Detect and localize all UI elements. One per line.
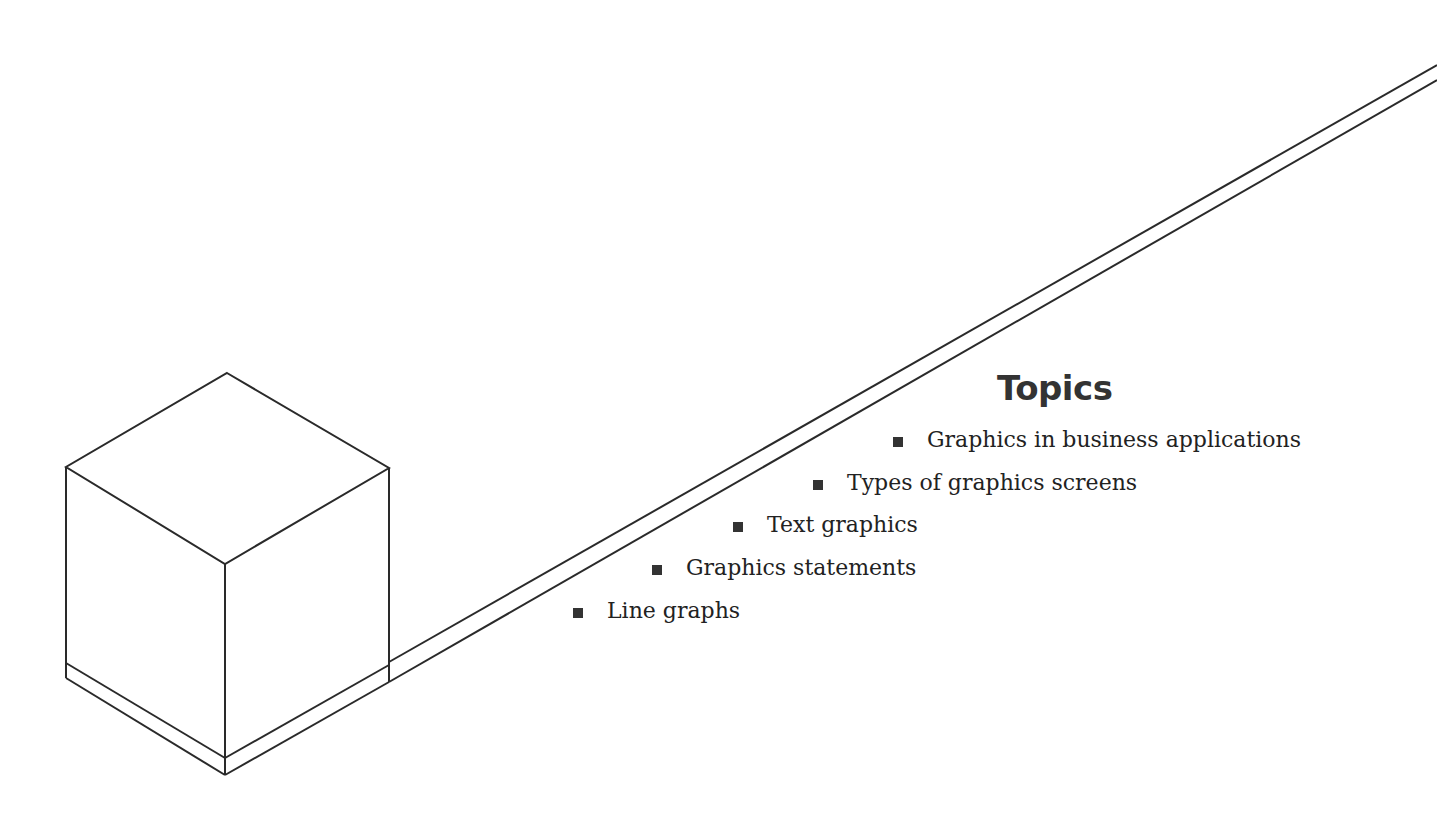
topics-title: Topics	[997, 368, 1112, 408]
topic-item: Types of graphics screens	[813, 470, 1137, 496]
square-bullet-icon	[733, 522, 743, 532]
topic-item: Line graphs	[573, 598, 740, 624]
isometric-cube-diagram	[0, 0, 1437, 827]
square-bullet-icon	[652, 565, 662, 575]
square-bullet-icon	[813, 480, 823, 490]
square-bullet-icon	[893, 437, 903, 447]
square-bullet-icon	[573, 608, 583, 618]
topic-item: Text graphics	[733, 512, 918, 538]
topic-item: Graphics statements	[652, 555, 916, 581]
cube-top-face	[66, 373, 389, 564]
rail-lower	[389, 80, 1437, 682]
topic-item: Graphics in business applications	[893, 427, 1301, 453]
